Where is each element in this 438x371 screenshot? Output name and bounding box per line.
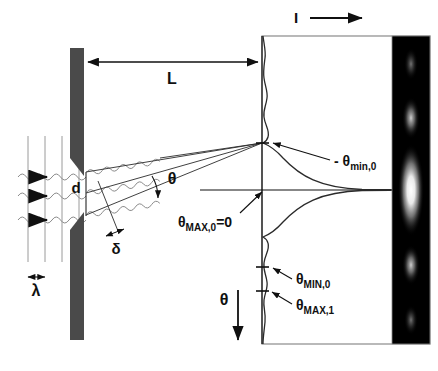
theta-axis-label: θ bbox=[220, 291, 229, 308]
path-difference-label: δ bbox=[111, 240, 120, 257]
converging-ray bbox=[160, 143, 262, 158]
distance-indicator: L bbox=[88, 62, 258, 87]
slit-width-label: d bbox=[71, 179, 80, 196]
callout-arrow bbox=[240, 192, 262, 213]
intensity-label: I bbox=[294, 9, 298, 26]
path-difference-indicator: δ bbox=[98, 181, 124, 257]
figure-canvas: λ d δ bbox=[0, 0, 438, 371]
theta-max-center-label: θMAX,0=0 bbox=[178, 214, 232, 233]
fringe bbox=[402, 97, 420, 139]
diffracted-ray bbox=[86, 201, 160, 216]
barrier-upper bbox=[70, 48, 84, 176]
theta-angle-label: θ bbox=[168, 170, 177, 187]
intensity-axis-indicator: I bbox=[294, 9, 362, 26]
fringe bbox=[398, 144, 424, 236]
wavelength-indicator: λ bbox=[28, 277, 45, 299]
wavelength-label: λ bbox=[32, 282, 41, 299]
diffraction-figure: λ d δ bbox=[0, 0, 438, 371]
fringe-photograph bbox=[392, 36, 430, 344]
delta-arrow bbox=[106, 229, 124, 236]
theta-axis-direction: θ bbox=[220, 290, 238, 340]
diffracted-ray bbox=[86, 179, 160, 194]
distance-label: L bbox=[167, 70, 177, 87]
fringe bbox=[404, 48, 418, 80]
fringe bbox=[402, 245, 420, 285]
diffracted-rays bbox=[86, 159, 160, 216]
barrier-lower bbox=[70, 212, 84, 340]
fringe bbox=[404, 305, 418, 335]
delta-construction-line bbox=[98, 181, 118, 231]
callout-theta-max-center: θMAX,0=0 bbox=[178, 192, 262, 233]
theta-angle-indicator: θ bbox=[152, 170, 176, 198]
